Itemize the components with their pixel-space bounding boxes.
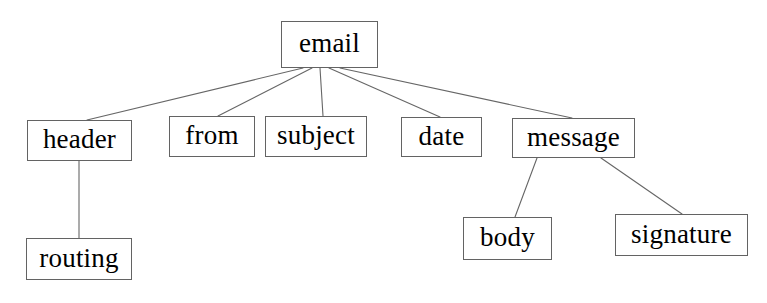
node-date[interactable]: date xyxy=(401,117,482,157)
node-signature[interactable]: signature xyxy=(615,214,748,256)
node-message[interactable]: message xyxy=(512,118,635,158)
node-from[interactable]: from xyxy=(169,116,255,157)
node-from-label: from xyxy=(185,122,238,149)
edge-email-message xyxy=(340,68,572,118)
node-body[interactable]: body xyxy=(463,217,552,260)
node-header[interactable]: header xyxy=(27,120,132,161)
node-message-label: message xyxy=(527,124,620,151)
node-routing-label: routing xyxy=(39,245,118,272)
edge-email-date xyxy=(329,68,440,117)
tree-diagram: email header from subject date message r… xyxy=(0,0,767,303)
edge-email-header xyxy=(87,68,303,120)
node-signature-label: signature xyxy=(631,221,732,248)
edge-message-body xyxy=(515,158,537,217)
node-header-label: header xyxy=(43,126,116,153)
node-body-label: body xyxy=(480,224,535,251)
edge-email-from xyxy=(218,68,312,116)
node-date-label: date xyxy=(419,123,465,150)
node-subject-label: subject xyxy=(277,122,355,149)
node-email-label: email xyxy=(299,30,360,57)
edge-email-subject xyxy=(320,68,323,116)
node-routing[interactable]: routing xyxy=(26,238,132,280)
node-email[interactable]: email xyxy=(281,21,378,68)
node-subject[interactable]: subject xyxy=(265,116,367,157)
edge-message-signature xyxy=(601,158,682,214)
